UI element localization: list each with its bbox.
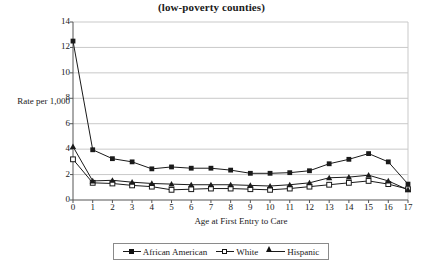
data-point-marker	[366, 151, 371, 156]
data-point-marker	[346, 180, 351, 185]
data-point-marker	[71, 39, 76, 44]
data-point-marker	[366, 179, 371, 184]
data-point-marker	[169, 187, 174, 192]
filled-triangle-marker-icon	[267, 247, 285, 256]
data-point-marker	[386, 159, 391, 164]
data-point-marker	[228, 168, 233, 173]
data-point-marker	[169, 165, 174, 170]
data-point-marker	[209, 166, 214, 171]
legend-item-african-american: African American	[123, 247, 208, 257]
data-point-marker	[90, 147, 95, 152]
legend-item-hispanic: Hispanic	[267, 247, 319, 257]
data-point-marker	[346, 157, 351, 162]
data-point-marker	[130, 159, 135, 164]
legend-label: African American	[143, 247, 208, 257]
data-point-marker	[307, 168, 312, 173]
series-line-african-american	[73, 41, 408, 184]
legend-label: White	[236, 247, 258, 257]
chart-container: (low-poverty counties) Rate per 1,000 02…	[0, 0, 423, 270]
series-line-hispanic	[73, 147, 408, 190]
data-point-marker	[70, 144, 76, 150]
data-point-marker	[71, 157, 76, 162]
data-point-marker	[327, 182, 332, 187]
filled-square-marker-icon	[123, 247, 141, 256]
legend-item-white: White	[216, 247, 258, 257]
chart-legend: African American White Hispanic	[113, 243, 329, 260]
x-axis-title: Age at First Entry to Care	[73, 216, 409, 226]
data-point-marker	[149, 166, 154, 171]
data-point-marker	[406, 182, 411, 187]
data-point-marker	[327, 161, 332, 166]
open-square-marker-icon	[216, 247, 234, 256]
data-point-marker	[268, 171, 273, 176]
data-point-marker	[189, 187, 194, 192]
data-point-marker	[248, 171, 253, 176]
data-point-marker	[189, 166, 194, 171]
data-point-marker	[287, 170, 292, 175]
plot-area	[0, 0, 423, 270]
legend-label: Hispanic	[287, 247, 319, 257]
data-point-marker	[110, 156, 115, 161]
